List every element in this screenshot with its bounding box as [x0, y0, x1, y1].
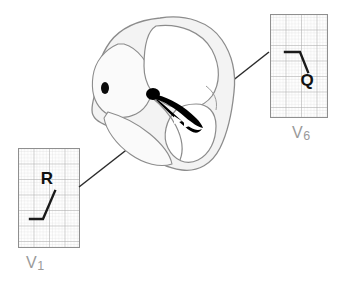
ecg-heart-figure: R V1 Q V6	[0, 0, 345, 286]
coronary-vessel-left	[101, 82, 109, 94]
heart-cross-section	[0, 0, 345, 286]
